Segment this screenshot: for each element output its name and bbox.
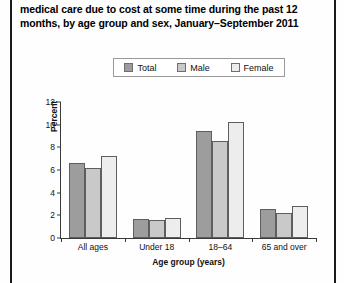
x-axis-tick-label: 18–64 [189,242,253,252]
bar-female [101,156,117,238]
x-axis-tick-mark [316,238,317,242]
y-axis-tick-label: 8 [31,142,55,152]
caption-line-1: medical care due to cost at some time du… [20,2,320,16]
y-axis-tick-label: 10 [31,120,55,130]
y-axis-tick-label: 0 [31,233,55,243]
page-rule-right [334,0,336,283]
bar-groups [61,102,316,238]
legend-entry-female: Female [231,63,274,73]
bar-male [149,220,165,238]
y-axis-ticks: 024681012 [29,102,61,238]
bar-female [165,218,181,238]
y-axis-tick-label: 6 [31,165,55,175]
page-rule-left [10,0,12,283]
legend-label: Female [244,63,274,73]
bar-group [252,102,316,238]
x-axis-tick-labels: All agesUnder 1818–6465 and over [61,242,316,252]
caption-line-2: months, by age group and sex, January–Se… [20,16,320,30]
legend-label: Total [137,63,156,73]
y-axis-tick-label: 2 [31,210,55,220]
bar-total [260,209,276,238]
bar-male [212,141,228,238]
bar-group [61,102,125,238]
x-axis-tick-label: Under 18 [125,242,189,252]
bar-total [69,163,85,238]
bar-male [85,168,101,238]
legend-swatch-icon [231,63,240,72]
figure-page: medical care due to cost at some time du… [0,0,344,283]
x-axis-tick-label: All ages [61,242,125,252]
bar-female [228,122,244,238]
legend-entry-total: Total [124,63,156,73]
x-axis-title: Age group (years) [61,257,316,267]
legend-entry-male: Male [177,63,210,73]
bar-total [196,131,212,238]
bar-group [125,102,189,238]
bar-group [189,102,253,238]
bar-male [276,213,292,238]
legend-swatch-icon [177,63,186,72]
chart-legend: TotalMaleFemale [113,58,285,77]
x-axis-tick-label: 65 and over [252,242,316,252]
y-axis-tick-label: 12 [31,97,55,107]
bar-total [133,219,149,238]
figure-caption: medical care due to cost at some time du… [20,2,320,30]
bar-female [292,206,308,238]
plot-area: Percent 024681012 All agesUnder 1818–646… [60,102,316,239]
legend-label: Male [190,63,210,73]
y-axis-tick-label: 4 [31,188,55,198]
legend-swatch-icon [124,63,133,72]
